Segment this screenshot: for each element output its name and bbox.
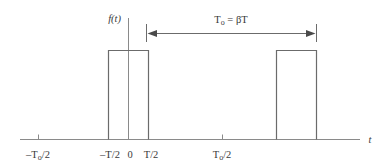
tick-label-to-half: To/2 bbox=[213, 149, 232, 162]
tick-label-t-half-tail: /2 bbox=[150, 149, 158, 160]
amplitude-axis-label: f(t) bbox=[108, 13, 121, 25]
tick-label-neg-to-half-lead: –T bbox=[25, 149, 38, 160]
tick-label-neg-t-half-lead: –T bbox=[99, 149, 112, 160]
figure-canvas: To = βT f(t) t –To/2 –T/2 0 T/2 To/2 bbox=[0, 0, 384, 166]
tick-label-neg-t-half-tail: /2 bbox=[112, 149, 120, 160]
period-annotation-label: To = βT bbox=[214, 14, 248, 27]
tick-label-t-half: T/2 bbox=[144, 149, 159, 160]
tick-label-neg-to-half: –To/2 bbox=[25, 149, 50, 162]
time-axis-label: t bbox=[369, 134, 373, 145]
dimension-arrowhead-right bbox=[306, 30, 316, 37]
tick-label-neg-t-half: –T/2 bbox=[99, 149, 120, 160]
tick-label-zero: 0 bbox=[127, 149, 132, 160]
pulse-rectangle-second bbox=[277, 51, 317, 140]
dimension-arrowhead-left bbox=[148, 30, 158, 37]
pulse-train-figure: To = βT f(t) t –To/2 –T/2 0 T/2 To/2 bbox=[0, 0, 384, 166]
period-annotation-relation: = βT bbox=[225, 14, 249, 25]
tick-label-to-half-tail: /2 bbox=[223, 149, 231, 160]
tick-label-neg-to-half-tail: /2 bbox=[42, 149, 50, 160]
